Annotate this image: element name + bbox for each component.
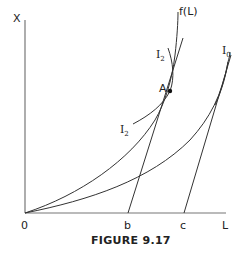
tangent-line-b xyxy=(128,38,183,213)
y-axis-label: X xyxy=(13,12,21,25)
indifference-right-label: I0 xyxy=(222,44,231,59)
indifference-curve-i0 xyxy=(215,52,230,105)
figure-9-17: X L 0 b c f(L) I2 I2 I0 A FIGURE 9.17 xyxy=(0,0,248,255)
point-a-label: A xyxy=(159,82,167,95)
origin-label: 0 xyxy=(21,219,28,232)
tangent-line-c xyxy=(184,55,231,213)
indifference-curve-i2 xyxy=(133,48,173,124)
production-function-curve xyxy=(25,12,178,213)
tick-label-b: b xyxy=(124,219,131,232)
production-function-label: f(L) xyxy=(179,5,198,18)
tick-label-c: c xyxy=(180,219,186,232)
figure-caption: FIGURE 9.17 xyxy=(91,234,171,247)
indifference-upper-label: I2 xyxy=(156,48,165,63)
x-axis-label: L xyxy=(222,219,229,232)
tangency-point-a xyxy=(168,89,172,93)
indifference-lower-label: I2 xyxy=(120,123,129,138)
